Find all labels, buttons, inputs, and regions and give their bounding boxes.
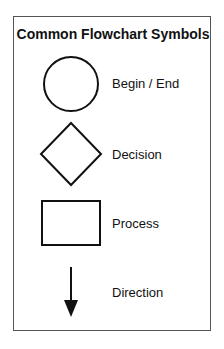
arrow-down-icon xyxy=(64,267,78,317)
diamond-symbol-icon xyxy=(41,123,101,185)
label-process: Process xyxy=(112,216,159,231)
label-begin-end: Begin / End xyxy=(112,76,179,91)
label-decision: Decision xyxy=(112,147,162,162)
circle-symbol-icon xyxy=(44,57,98,111)
rectangle-symbol-icon xyxy=(42,201,100,245)
label-direction: Direction xyxy=(112,285,163,300)
